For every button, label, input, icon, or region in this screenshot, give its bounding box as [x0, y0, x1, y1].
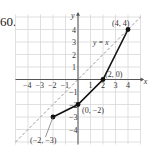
y-axis-label: y: [70, 11, 75, 20]
point-label: (2, 0): [105, 70, 123, 79]
data-point: [126, 27, 131, 32]
y-tick-label: −4: [69, 126, 78, 135]
data-point: [76, 102, 81, 107]
y-axis-arrow-icon: [76, 12, 80, 16]
x-tick-label: 3: [114, 81, 118, 90]
x-tick-label: −1: [61, 81, 70, 90]
y-tick-label: 1: [72, 63, 76, 72]
x-tick-label: −4: [23, 81, 32, 90]
y-tick-label: 4: [72, 26, 76, 35]
x-tick-label: −2: [48, 81, 57, 90]
x-axis-label: x: [143, 77, 148, 86]
y-tick-label: 2: [72, 51, 76, 60]
y-tick-label: 3: [72, 38, 76, 47]
x-tick-label: 4: [126, 81, 130, 90]
point-label: (0, −2): [82, 106, 104, 115]
coordinate-plot: xy−4−3−2−112344321−1−2−3−4(4, 4)(2, 0)(0…: [0, 0, 149, 156]
point-label: (−2, −3): [30, 136, 57, 145]
point-label: (4, 4): [112, 19, 130, 28]
x-tick-label: 1: [89, 81, 93, 90]
y-tick-label: −3: [69, 113, 78, 122]
leader-line: [46, 117, 54, 137]
y-tick-label: −1: [69, 88, 78, 97]
line-label-y-equals-x: y = x: [92, 38, 109, 47]
x-tick-label: −3: [36, 81, 45, 90]
